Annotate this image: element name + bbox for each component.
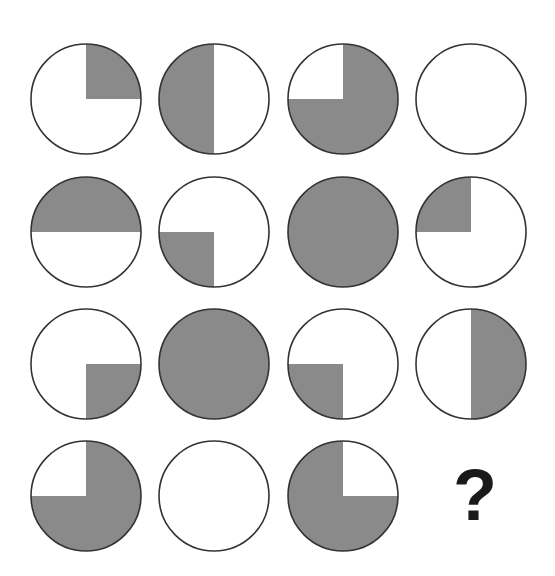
quadrant-circle-icon <box>158 43 270 155</box>
circle-r4-c1 <box>30 440 142 552</box>
circle-r1-c1 <box>30 43 142 155</box>
quadrant-circle-icon <box>158 440 270 552</box>
quadrant-circle-icon <box>415 308 527 420</box>
quadrant-circle-icon <box>30 43 142 155</box>
quadrant-circle-icon <box>415 43 527 155</box>
circle-r2-c3 <box>287 176 399 288</box>
quadrant-circle-icon <box>158 308 270 420</box>
circle-r2-c4 <box>415 176 527 288</box>
quadrant-circle-icon <box>30 308 142 420</box>
circle-r2-c1 <box>30 176 142 288</box>
circle-r1-c3 <box>287 43 399 155</box>
circle-r1-c2 <box>158 43 270 155</box>
quadrant-circle-icon <box>158 176 270 288</box>
quadrant-circle-icon <box>287 43 399 155</box>
circle-r3-c2 <box>158 308 270 420</box>
quadrant-circle-icon <box>287 440 399 552</box>
circle-r3-c1 <box>30 308 142 420</box>
circle-r2-c2 <box>158 176 270 288</box>
quadrant-circle-icon <box>30 440 142 552</box>
circle-r4-c2 <box>158 440 270 552</box>
circle-r1-c4 <box>415 43 527 155</box>
missing-cell-question-mark: ? <box>440 440 510 550</box>
quadrant-circle-icon <box>287 176 399 288</box>
circle-r3-c4 <box>415 308 527 420</box>
quadrant-circle-icon <box>287 308 399 420</box>
circle-r3-c3 <box>287 308 399 420</box>
quadrant-circle-icon <box>30 176 142 288</box>
circle-r4-c3 <box>287 440 399 552</box>
quadrant-circle-icon <box>415 176 527 288</box>
